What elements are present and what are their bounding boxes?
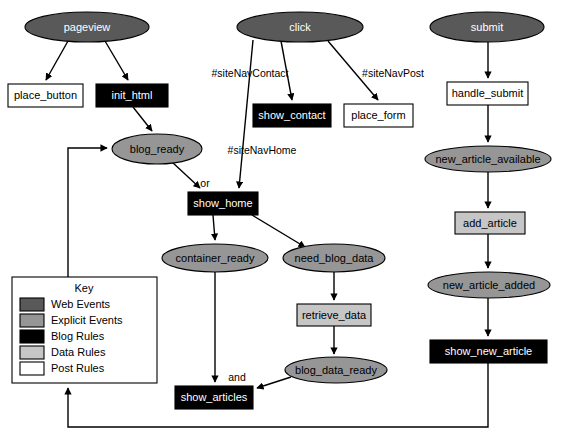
key-item-explicit-events: Explicit Events bbox=[20, 314, 123, 327]
node-blog-data-ready-label: blog_data_ready bbox=[295, 364, 377, 376]
key-label-web-events: Web Events bbox=[51, 298, 111, 310]
node-blog-ready-label: blog_ready bbox=[130, 143, 185, 155]
node-pageview-label: pageview bbox=[64, 21, 111, 33]
key-swatch-data-rules bbox=[20, 346, 44, 359]
key-label-explicit-events: Explicit Events bbox=[51, 314, 123, 326]
flow-diagram: #siteNavContact #siteNavPost #siteNavHom… bbox=[0, 0, 564, 443]
node-blog-data-ready[interactable]: blog_data_ready bbox=[285, 357, 387, 383]
edge-label-and: and bbox=[228, 371, 246, 383]
node-new-article-added[interactable]: new_article_added bbox=[428, 272, 550, 298]
edge-show-home-container-ready bbox=[213, 215, 215, 240]
edge-label-site-nav-contact: #siteNavContact bbox=[211, 67, 288, 79]
node-blog-ready[interactable]: blog_ready bbox=[112, 134, 202, 164]
node-show-articles-label: show_articles bbox=[181, 391, 248, 403]
node-need-blog-data-label: need_blog_data bbox=[295, 252, 375, 264]
edge-init-html-blog-ready bbox=[133, 107, 152, 131]
key-label-blog-rules: Blog Rules bbox=[51, 330, 105, 342]
key-label-data-rules: Data Rules bbox=[51, 346, 106, 358]
node-show-new-article[interactable]: show_new_article bbox=[430, 340, 547, 363]
node-retrieve-data-label: retrieve_data bbox=[302, 309, 367, 321]
edge-click-show-home bbox=[239, 40, 253, 188]
diagram-canvas: #siteNavContact #siteNavPost #siteNavHom… bbox=[0, 0, 564, 443]
edge-pageview-init-html bbox=[105, 41, 128, 80]
edge-show-home-need-blog-data bbox=[252, 215, 305, 247]
node-new-article-available[interactable]: new_article_available bbox=[425, 146, 551, 172]
key-swatch-web-events bbox=[20, 298, 44, 311]
node-container-ready-label: container_ready bbox=[176, 252, 255, 264]
edge-label-or: or bbox=[200, 177, 210, 189]
edge-label-site-nav-home: #siteNavHome bbox=[228, 144, 297, 156]
node-submit-label: submit bbox=[471, 21, 503, 33]
node-show-contact-label: show_contact bbox=[258, 109, 325, 121]
node-add-article[interactable]: add_article bbox=[455, 212, 525, 234]
node-submit[interactable]: submit bbox=[430, 12, 544, 42]
key-swatch-explicit-events bbox=[20, 314, 44, 327]
key-item-post-rules: Post Rules bbox=[20, 362, 105, 375]
node-place-button-label: place_button bbox=[14, 89, 77, 101]
key-label-post-rules: Post Rules bbox=[51, 362, 105, 374]
node-show-home-label: show_home bbox=[193, 197, 252, 209]
node-handle-submit[interactable]: handle_submit bbox=[447, 82, 528, 105]
node-place-form[interactable]: place_form bbox=[344, 104, 413, 127]
node-click-label: click bbox=[289, 21, 311, 33]
node-pageview[interactable]: pageview bbox=[25, 12, 149, 42]
key-title: Key bbox=[75, 282, 94, 294]
node-new-article-added-label: new_article_added bbox=[443, 279, 535, 291]
node-new-article-available-label: new_article_available bbox=[435, 153, 540, 165]
node-init-html-label: init_html bbox=[112, 89, 153, 101]
key-item-data-rules: Data Rules bbox=[20, 346, 106, 359]
node-add-article-label: add_article bbox=[463, 217, 517, 229]
edge-blog-data-ready-show-articles bbox=[257, 377, 291, 388]
edge-blog-ready-show-home bbox=[172, 162, 200, 188]
node-show-contact[interactable]: show_contact bbox=[253, 104, 331, 127]
node-click[interactable]: click bbox=[237, 12, 363, 42]
node-container-ready[interactable]: container_ready bbox=[162, 244, 268, 272]
key-swatch-post-rules bbox=[20, 362, 44, 375]
edge-label-site-nav-post: #siteNavPost bbox=[362, 67, 424, 79]
key-item-blog-rules: Blog Rules bbox=[20, 330, 105, 343]
key-swatch-blog-rules bbox=[20, 330, 44, 343]
node-place-button[interactable]: place_button bbox=[8, 84, 83, 107]
node-handle-submit-label: handle_submit bbox=[452, 87, 524, 99]
node-retrieve-data[interactable]: retrieve_data bbox=[297, 304, 371, 326]
node-show-articles[interactable]: show_articles bbox=[175, 386, 253, 409]
edge-pageview-place-button bbox=[46, 41, 68, 80]
key-item-web-events: Web Events bbox=[20, 298, 111, 311]
node-show-home[interactable]: show_home bbox=[188, 192, 258, 215]
key-legend: Key Web Events Explicit Events Blog Rule… bbox=[12, 277, 157, 383]
node-init-html[interactable]: init_html bbox=[96, 84, 168, 107]
node-show-new-article-label: show_new_article bbox=[445, 345, 532, 357]
node-place-form-label: place_form bbox=[351, 109, 405, 121]
node-need-blog-data[interactable]: need_blog_data bbox=[283, 244, 385, 272]
